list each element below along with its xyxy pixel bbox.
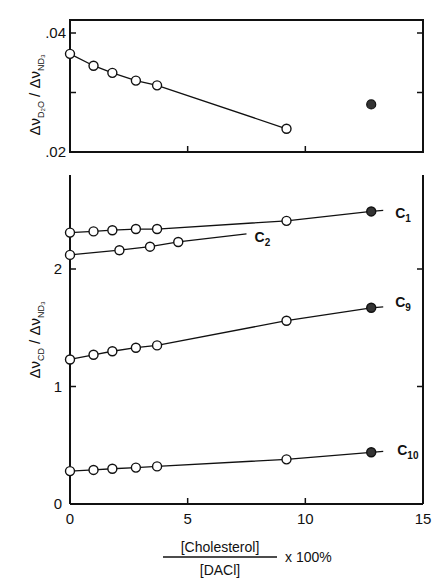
- data-point-filled: [367, 100, 376, 109]
- data-point: [89, 227, 98, 236]
- x-label-denominator: [DACl]: [200, 562, 240, 578]
- data-point: [282, 216, 291, 225]
- data-point: [66, 355, 75, 364]
- x-tick-label: 0: [66, 510, 74, 527]
- data-point: [66, 228, 75, 237]
- series-label-c10: C10: [397, 442, 419, 461]
- data-point: [282, 124, 291, 133]
- y-tick-label: 1: [54, 378, 62, 395]
- series-label-c2: C2: [255, 229, 271, 248]
- data-point: [282, 455, 291, 464]
- data-point: [115, 246, 124, 255]
- data-point: [153, 225, 162, 234]
- x-tick-label: 15: [415, 510, 432, 527]
- data-point: [153, 462, 162, 471]
- y-tick-label: 0: [54, 495, 62, 512]
- chart-canvas: .04.02ΔνD₂O / ΔνND₃012051015C1C2C9C10ΔνC…: [0, 0, 442, 585]
- data-point: [131, 76, 140, 85]
- y-tick-label: 2: [54, 260, 62, 277]
- data-point: [131, 463, 140, 472]
- data-point: [89, 350, 98, 359]
- data-point: [131, 225, 140, 234]
- data-point: [89, 465, 98, 474]
- y-tick-label: .02: [45, 143, 66, 160]
- bottom-panel: 012051015C1C2C9C10ΔνCD / ΔνND₃: [26, 175, 431, 527]
- data-point: [174, 237, 183, 246]
- top-plot-frame: [70, 20, 423, 152]
- data-point: [108, 68, 117, 77]
- data-point: [89, 61, 98, 70]
- data-point: [146, 242, 155, 251]
- bottom-y-axis-label: ΔνCD / ΔνND₃: [26, 301, 46, 379]
- data-point: [66, 49, 75, 58]
- data-point: [66, 467, 75, 476]
- top-panel: .04.02ΔνD₂O / ΔνND₃: [26, 20, 423, 160]
- y-tick-label: .04: [45, 24, 66, 41]
- x-axis-label: [Cholesterol][DACl]x 100%: [163, 539, 332, 578]
- x-label-suffix: x 100%: [285, 549, 332, 565]
- data-point: [131, 343, 140, 352]
- data-point: [66, 250, 75, 259]
- data-point: [153, 81, 162, 90]
- series-line-d2o: [70, 54, 287, 129]
- x-tick-label: 10: [297, 510, 314, 527]
- x-label-numerator: [Cholesterol]: [181, 539, 260, 555]
- data-point-filled: [367, 207, 376, 216]
- data-point: [108, 347, 117, 356]
- data-point-filled: [367, 448, 376, 457]
- series-label-c1: C1: [395, 205, 411, 224]
- data-point: [108, 226, 117, 235]
- data-point: [108, 464, 117, 473]
- data-point: [282, 316, 291, 325]
- data-point: [153, 341, 162, 350]
- series-line-c2: [70, 234, 247, 255]
- top-y-axis-label: ΔνD₂O / ΔνND₃: [26, 54, 46, 136]
- data-point-filled: [367, 303, 376, 312]
- x-tick-label: 5: [183, 510, 191, 527]
- series-label-c9: C9: [395, 294, 411, 313]
